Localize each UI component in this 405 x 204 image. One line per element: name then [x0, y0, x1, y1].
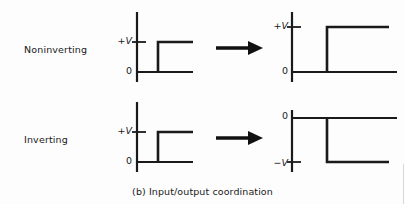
right-arrow-icon — [214, 36, 266, 60]
waveform-inverting-output — [275, 96, 405, 176]
waveform-inverting-input — [120, 96, 210, 176]
figure-caption: (b) Input/output coordination — [0, 186, 405, 197]
waveform-noninverting-input — [120, 6, 210, 86]
scan-edge-artifact — [403, 164, 404, 204]
waveform-noninverting-output — [275, 6, 405, 86]
signal-trace — [158, 132, 193, 162]
right-arrow-icon — [214, 126, 266, 150]
signal-trace — [158, 42, 193, 72]
row-label-inverting: Inverting — [24, 134, 68, 145]
figure-input-output-coordination: Noninverting +V 0 +V 0 Inver — [0, 0, 405, 204]
signal-trace — [327, 27, 389, 72]
row-label-noninverting: Noninverting — [24, 44, 87, 55]
signal-trace — [327, 118, 389, 162]
